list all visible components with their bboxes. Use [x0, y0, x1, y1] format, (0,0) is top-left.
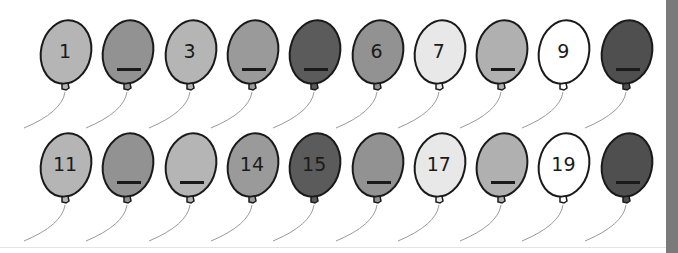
balloon-10[interactable] [585, 0, 647, 125]
balloon-shape-icon [522, 118, 592, 248]
balloon-number: 15 [289, 153, 339, 175]
balloon-shape-icon [24, 118, 94, 248]
balloon-shape-icon [585, 0, 655, 130]
balloon-7: 7 [398, 0, 460, 125]
balloon-20[interactable] [585, 118, 647, 243]
balloon-number: 14 [227, 153, 277, 175]
balloon-number: 3 [165, 40, 215, 62]
balloon-3: 3 [149, 0, 211, 125]
balloon-18[interactable] [460, 118, 522, 243]
answer-blank[interactable] [367, 181, 391, 184]
balloon-4[interactable] [211, 0, 273, 125]
answer-blank[interactable] [491, 181, 515, 184]
answer-blank[interactable] [616, 181, 640, 184]
balloon-5[interactable] [273, 0, 335, 125]
balloon-shape-icon [211, 0, 281, 130]
balloon-2[interactable] [86, 0, 148, 125]
balloon-shape-icon [273, 118, 343, 248]
balloon-16[interactable] [336, 118, 398, 243]
balloon-number: 19 [538, 153, 588, 175]
balloon-11: 11 [24, 118, 86, 243]
balloon-row-2: 1114151719 [0, 118, 660, 243]
balloon-shape-icon [273, 0, 343, 130]
balloon-12[interactable] [86, 118, 148, 243]
balloon-9: 9 [522, 0, 584, 125]
answer-blank[interactable] [117, 181, 141, 184]
balloon-number: 6 [352, 40, 402, 62]
balloon-shape-icon [336, 0, 406, 130]
balloon-number: 17 [414, 153, 464, 175]
balloon-number: 1 [40, 40, 90, 62]
balloon-number: 11 [40, 153, 90, 175]
balloon-15: 15 [273, 118, 335, 243]
balloon-shape-icon [522, 0, 592, 130]
balloon-14: 14 [211, 118, 273, 243]
answer-blank[interactable] [491, 68, 515, 71]
balloon-shape-icon [460, 0, 530, 130]
balloon-shape-icon [211, 118, 281, 248]
divider-line [0, 247, 666, 248]
answer-blank[interactable] [616, 68, 640, 71]
balloon-6: 6 [336, 0, 398, 125]
balloon-number: 7 [414, 40, 464, 62]
balloon-row-1: 13679 [0, 0, 660, 125]
balloon-19: 19 [522, 118, 584, 243]
balloon-shape-icon [398, 118, 468, 248]
balloon-13[interactable] [149, 118, 211, 243]
balloon-8[interactable] [460, 0, 522, 125]
answer-blank[interactable] [180, 181, 204, 184]
balloon-number: 9 [538, 40, 588, 62]
answer-blank[interactable] [117, 68, 141, 71]
balloon-17: 17 [398, 118, 460, 243]
side-scrollbar[interactable] [666, 0, 678, 253]
answer-blank[interactable] [242, 68, 266, 71]
balloon-shape-icon [86, 0, 156, 130]
balloon-shape-icon [24, 0, 94, 130]
balloon-shape-icon [398, 0, 468, 130]
answer-blank[interactable] [304, 68, 328, 71]
balloon-shape-icon [149, 0, 219, 130]
balloon-1: 1 [24, 0, 86, 125]
